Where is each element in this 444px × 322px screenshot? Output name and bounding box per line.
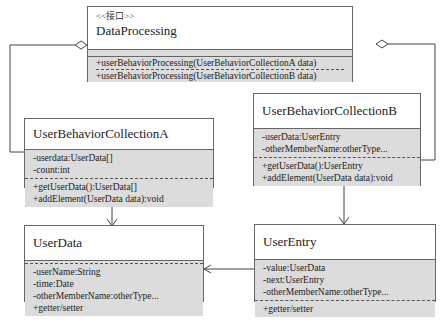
attributes-section: -userName:String -time:Date -otherMember… <box>25 264 203 316</box>
operation: +userBehaviorProcessing(UserBehaviorColl… <box>96 70 344 82</box>
class-name: UserBehaviorCollectionB <box>262 102 412 119</box>
aggregation-diamond-left-icon <box>75 41 87 49</box>
attributes-section: -userData:UserEntry -otherMemberName:oth… <box>254 128 420 157</box>
attribute: -userName:String <box>33 266 195 278</box>
attribute: -time:Date <box>33 278 195 290</box>
attributes-section: -value:UserData -next:UserEntry -otherMe… <box>255 259 435 300</box>
attribute: -value:UserData <box>263 262 427 274</box>
operation: +getUserData():UserData[] <box>33 181 205 193</box>
class-name: DataProcessing <box>96 22 344 39</box>
class-userbehaviorcollection-b[interactable]: UserBehaviorCollectionB -userData:UserEn… <box>253 93 421 186</box>
attribute: -next:UserEntry <box>263 274 427 286</box>
class-userbehaviorcollection-a[interactable]: UserBehaviorCollectionA -userdata:UserDa… <box>24 118 214 188</box>
class-name: UserBehaviorCollectionA <box>33 125 205 142</box>
attribute: -otherMemberName:otherType... <box>262 143 412 155</box>
attribute: +getter/setter <box>33 302 195 314</box>
attribute: -otherMemberName:otherType... <box>263 286 427 298</box>
operation: +getter/setter <box>263 303 427 315</box>
operation: +getUserData():UserEntry <box>262 160 412 172</box>
operations-section: +userBehaviorProcessing(UserBehaviorColl… <box>88 56 352 82</box>
attribute: -count:int <box>33 164 205 176</box>
class-name: UserEntry <box>263 233 427 250</box>
operation: +userBehaviorProcessing(UserBehaviorColl… <box>96 57 344 70</box>
operations-section: +getUserData():UserEntry +addElement(Use… <box>254 157 420 186</box>
class-userentry[interactable]: UserEntry -value:UserData -next:UserEntr… <box>254 224 436 302</box>
class-dataprocessing[interactable]: <<接口>> DataProcessing +userBehaviorProce… <box>87 6 353 82</box>
operation: +addElement(UserData data):void <box>33 193 205 205</box>
attribute: -userdata:UserData[] <box>33 152 205 164</box>
attribute: -userData:UserEntry <box>262 131 412 143</box>
operations-section: +getUserData():UserData[] +addElement(Us… <box>25 178 213 207</box>
attributes-section: -userdata:UserData[] -count:int <box>25 149 213 178</box>
operation: +addElement(UserData data):void <box>262 172 412 184</box>
attributes-section <box>88 49 352 56</box>
aggregation-diamond-right-icon <box>376 40 388 48</box>
stereotype-label: <<接口>> <box>96 11 344 22</box>
operations-section: +getter/setter <box>255 300 435 317</box>
class-userdata[interactable]: UserData -userName:String -time:Date -ot… <box>24 225 204 302</box>
attribute: -otherMemberName:otherType... <box>33 290 195 302</box>
class-name: UserData <box>33 234 195 251</box>
